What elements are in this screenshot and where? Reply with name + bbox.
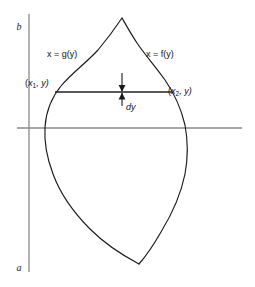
calculus-region-figure: b a x = g(y) x = f(y) (x1, y) (x2, y) dy <box>0 0 255 287</box>
dy-label: dy <box>126 102 136 112</box>
lower-limit-label: a <box>17 262 22 273</box>
dy-upper-arrowhead-icon <box>119 85 126 92</box>
left-endpoint-rest: , y) <box>36 78 49 88</box>
right-curve-label-text: x = f(y) <box>146 49 174 59</box>
right-endpoint-label: (x2, y) <box>168 86 192 97</box>
figure-canvas: b a x = g(y) x = f(y) (x1, y) (x2, y) dy <box>0 0 255 287</box>
dy-dimension-group <box>119 73 126 106</box>
right-endpoint-rest: , y) <box>179 86 192 96</box>
upper-limit-label: b <box>17 21 22 32</box>
left-curve-label: x = g(y) <box>47 49 77 59</box>
dy-lower-arrowhead-icon <box>119 93 126 100</box>
right-curve-label: x = f(y) <box>146 49 174 59</box>
left-endpoint-label: (x1, y) <box>25 78 49 89</box>
